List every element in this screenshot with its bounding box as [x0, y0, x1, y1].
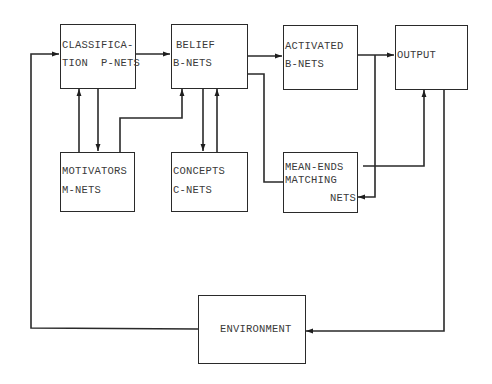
node-label-line1: OUTPUT [397, 49, 436, 61]
node-environment: ENVIRONMENT [198, 295, 306, 364]
node-output: OUTPUT [395, 25, 468, 90]
node-belief-b-nets: BELIEF B-NETS [171, 24, 248, 89]
node-label-line1: BELIEF [176, 39, 215, 51]
node-label-line1: CONCEPTS [173, 165, 225, 177]
edge-meanends-to-output [363, 90, 424, 166]
edge-belief-to-meanends [247, 74, 283, 182]
node-mean-ends-matching-nets: MEAN-ENDS MATCHING NETS [283, 152, 358, 213]
node-label-line2: TION P-NETS [62, 57, 140, 69]
node-label-line1: CLASSIFICA- [62, 39, 134, 51]
node-concepts-c-nets: CONCEPTS C-NETS [171, 152, 248, 212]
edge-motivators-to-belief [120, 89, 182, 152]
edge-activated-to-meanends [358, 55, 375, 197]
node-label-line3: NETS [330, 192, 356, 204]
node-label-line1: ACTIVATED [285, 40, 344, 52]
node-label-line1: ENVIRONMENT [220, 323, 292, 335]
node-label-line2: MATCHING [285, 174, 337, 186]
node-label-line2: B-NETS [173, 57, 212, 69]
node-label-line1: MEAN-ENDS [285, 161, 344, 173]
node-label-line2: B-NETS [285, 58, 324, 70]
node-motivators-m-nets: MOTIVATORS M-NETS [60, 152, 135, 212]
diagram-canvas: CLASSIFICA- TION P-NETS BELIEF B-NETS AC… [0, 0, 492, 384]
node-activated-b-nets: ACTIVATED B-NETS [283, 25, 358, 90]
node-label-line2: M-NETS [62, 184, 101, 196]
node-label-line2: C-NETS [173, 184, 212, 196]
node-label-line1: MOTIVATORS [62, 165, 127, 177]
node-classification-p-nets: CLASSIFICA- TION P-NETS [60, 24, 136, 89]
